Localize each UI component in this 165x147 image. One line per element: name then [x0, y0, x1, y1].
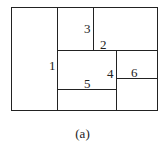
outer-left-edge: [11, 7, 12, 111]
line-3: [93, 7, 94, 50]
label-6: 6: [131, 66, 138, 79]
outer-top-edge: [11, 7, 158, 8]
figure-caption: (a): [0, 126, 165, 142]
label-3: 3: [84, 22, 91, 35]
line-1: [57, 7, 58, 111]
outer-right-edge: [157, 7, 158, 111]
label-2: 2: [100, 38, 107, 51]
label-4: 4: [107, 67, 114, 80]
line-2: [57, 50, 158, 51]
label-1: 1: [49, 59, 56, 72]
label-5: 5: [84, 77, 91, 90]
line-4: [116, 50, 117, 111]
outer-bottom-edge: [11, 110, 158, 111]
